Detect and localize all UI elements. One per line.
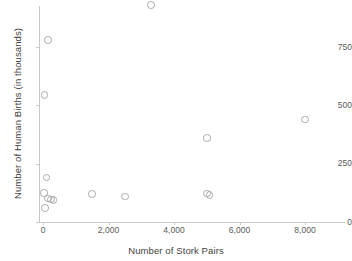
scatter-chart: 0250500750 02,0004,0006,0008,000 Number … xyxy=(0,0,352,261)
data-point xyxy=(147,1,155,9)
x-axis-title: Number of Stork Pairs xyxy=(0,245,352,256)
data-point xyxy=(203,134,211,142)
x-tick-mark xyxy=(43,222,44,225)
x-tick-label: 4,000 xyxy=(144,226,204,235)
data-point xyxy=(206,191,214,199)
y-tick-label: 750 xyxy=(318,43,352,52)
x-tick-mark xyxy=(174,222,175,225)
data-point xyxy=(50,196,58,204)
y-axis-line xyxy=(39,6,40,222)
y-tick-mark xyxy=(36,222,39,223)
y-tick-mark xyxy=(36,47,39,48)
plot-area xyxy=(39,6,344,222)
y-axis-title: Number of Human Births (in thousands) xyxy=(12,9,23,219)
data-point xyxy=(41,204,49,212)
data-point xyxy=(121,193,129,201)
x-tick-mark xyxy=(305,222,306,225)
x-tick-mark xyxy=(240,222,241,225)
x-tick-mark xyxy=(109,222,110,225)
data-point xyxy=(44,36,52,44)
data-point xyxy=(88,190,96,198)
y-tick-label: 250 xyxy=(318,159,352,168)
x-tick-label: 8,000 xyxy=(275,226,335,235)
data-point xyxy=(41,91,49,99)
data-point xyxy=(301,116,309,124)
x-tick-label: 2,000 xyxy=(79,226,139,235)
y-tick-label: 500 xyxy=(318,101,352,110)
y-tick-mark xyxy=(36,105,39,106)
x-tick-label: 6,000 xyxy=(210,226,270,235)
x-axis-line xyxy=(39,222,345,223)
y-tick-mark xyxy=(36,164,39,165)
y-tick-label: 0 xyxy=(318,218,352,227)
x-tick-label: 0 xyxy=(13,226,73,235)
